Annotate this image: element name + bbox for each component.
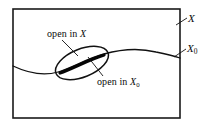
ambient-space-rectangle xyxy=(13,9,180,118)
figure-canvas xyxy=(0,0,215,128)
topology-figure: open in X open in X0 X X0 xyxy=(0,0,215,128)
leader-line-space-x xyxy=(176,18,187,25)
leader-line-open-in-x0 xyxy=(88,57,103,76)
